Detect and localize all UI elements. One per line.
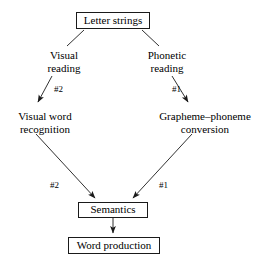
edge-label-visual-reading-to-recognition: #2 (54, 84, 63, 94)
node-phonetic-reading-label-line2: reading (131, 62, 203, 75)
node-visual-reading: Visual reading (33, 49, 95, 75)
node-phonetic-reading: Phonetic reading (131, 49, 203, 75)
node-visual-word-recognition: Visual word recognition (3, 110, 87, 136)
node-semantics-label: Semantics (90, 204, 135, 216)
edge-word-recognition-to-semantics (36, 134, 95, 198)
node-visual-word-recognition-label-line2: recognition (3, 123, 87, 136)
node-grapheme-phoneme-conversion-label-line1: Grapheme–phoneme (155, 110, 255, 123)
node-word-production-label: Word production (77, 240, 152, 252)
node-letter-strings: Letter strings (76, 12, 150, 29)
node-grapheme-phoneme-conversion: Grapheme–phoneme conversion (155, 110, 255, 136)
node-visual-reading-label-line1: Visual (33, 49, 95, 62)
reading-model-diagram: Letter strings Visual reading Phonetic r… (0, 0, 258, 262)
node-visual-reading-label-line2: reading (33, 62, 95, 75)
edge-label-conversion-to-semantics: #1 (159, 180, 168, 190)
node-letter-strings-label: Letter strings (84, 15, 142, 27)
edge-label-phonetic-reading-to-conversion: #1 (172, 84, 181, 94)
node-phonetic-reading-label-line1: Phonetic (131, 49, 203, 62)
node-semantics: Semantics (78, 202, 148, 218)
node-grapheme-phoneme-conversion-label-line2: conversion (155, 123, 255, 136)
edge-label-recognition-to-semantics: #2 (50, 180, 59, 190)
node-word-production: Word production (68, 237, 160, 254)
edge-letter-strings-to-visual-reading (67, 30, 84, 46)
edge-letter-strings-to-phonetic-reading (142, 30, 159, 46)
edge-visual-reading-to-word-recognition (38, 76, 52, 102)
node-visual-word-recognition-label-line1: Visual word (3, 110, 87, 123)
